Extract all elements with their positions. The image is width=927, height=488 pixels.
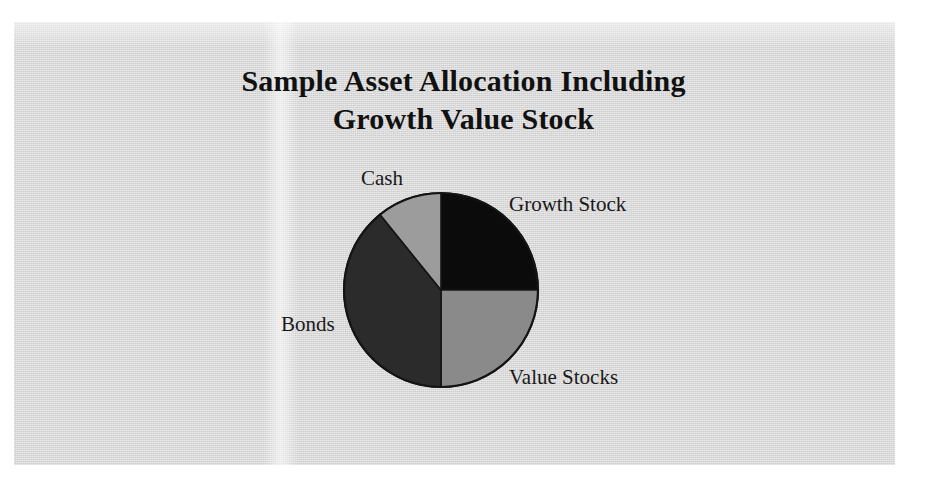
chart-title: Sample Asset Allocation Including Growth… [0, 62, 927, 138]
chart-title-line-1: Sample Asset Allocation Including [0, 62, 927, 100]
pie-label-growth-stock: Growth Stock [509, 192, 626, 216]
pie-label-value-stocks: Value Stocks [509, 365, 618, 389]
pie-label-cash: Cash [361, 166, 403, 190]
pie-chart-svg [341, 190, 541, 390]
figure-root: Sample Asset Allocation Including Growth… [0, 0, 927, 488]
chart-title-line-2: Growth Value Stock [0, 100, 927, 138]
pie-chart [341, 190, 541, 390]
paper-top-band [14, 22, 895, 48]
pie-label-bonds: Bonds [281, 312, 335, 336]
